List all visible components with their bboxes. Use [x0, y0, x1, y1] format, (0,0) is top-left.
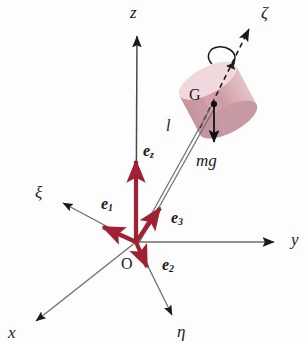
e-3-vector-label: e3 — [171, 210, 183, 226]
e-1-vector-line — [103, 227, 136, 242]
xi-axis-label: ξ — [35, 184, 42, 201]
mg-vector-label: mg — [196, 152, 217, 169]
eta-axis-label: η — [177, 323, 185, 340]
zeta-axis-label: ζ — [261, 4, 268, 21]
diagram-canvas — [0, 0, 308, 344]
e-1-subscript: 1 — [108, 202, 113, 213]
e-2-vector-label: e2 — [162, 257, 174, 273]
e-3-vector-line — [136, 208, 160, 242]
e-3-subscript: 3 — [178, 216, 183, 227]
physics-diagram: z y x ξ η ζ ez e1 e2 e3 mg l G O — [0, 0, 308, 344]
e-z-vector-label: ez — [143, 143, 154, 159]
e-z-subscript: z — [150, 149, 154, 160]
y-axis-label: y — [291, 231, 299, 248]
center-of-mass-label: G — [189, 87, 201, 103]
z-axis-label: z — [130, 4, 137, 21]
e-2-vector-line — [136, 242, 147, 267]
origin-label: O — [121, 256, 133, 272]
x-axis-label: x — [8, 324, 16, 341]
e-1-vector-label: e1 — [101, 196, 113, 212]
length-label: l — [166, 118, 170, 134]
body-fixed-axes — [63, 203, 172, 315]
e-2-subscript: 2 — [169, 263, 174, 274]
spinning-top-cylinder — [173, 54, 262, 146]
x-axis-line — [36, 242, 136, 321]
center-of-mass-point — [211, 101, 217, 107]
